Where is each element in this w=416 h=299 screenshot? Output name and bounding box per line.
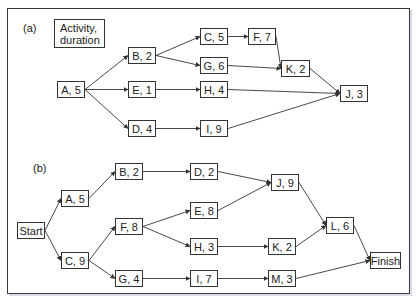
edge-f-h — [143, 227, 190, 247]
edge-k-l — [296, 226, 326, 247]
activity-node-k: K, 2 — [281, 60, 310, 77]
activity-node-d: D, 2 — [190, 163, 218, 180]
activity-node-b: B, 2 — [115, 163, 143, 180]
edge-d-j — [218, 172, 271, 183]
activity-node-j: J, 9 — [271, 174, 299, 191]
edge-g-k — [228, 66, 281, 69]
activity-node-h: H, 4 — [200, 81, 228, 98]
diagram-b-label: (b) — [33, 162, 46, 174]
activity-node-k: K, 2 — [268, 238, 296, 255]
edge-start-a — [45, 199, 61, 231]
activity-node-i: I, 9 — [200, 120, 228, 137]
activity-node-e: E, 1 — [128, 81, 156, 98]
edge-a-b — [89, 172, 115, 199]
edge-start-c — [45, 231, 61, 261]
edge-a-b — [85, 56, 128, 90]
edge-c-f — [89, 227, 115, 261]
network-diagram-figure: (a) Activity, duration (b) A, 5B, 2E, 1D… — [0, 0, 416, 299]
edge-e-j — [218, 183, 271, 211]
edge-b-c — [156, 37, 200, 56]
edge-j-l — [299, 183, 326, 226]
activity-node-l: L, 6 — [326, 217, 354, 234]
edge-i-j — [228, 94, 340, 129]
activity-node-c: C, 5 — [200, 28, 228, 45]
edge-f-e — [143, 211, 190, 227]
activity-node-a: A, 5 — [61, 190, 89, 207]
activity-node-f: F, 7 — [248, 28, 276, 45]
activity-node-a: A, 5 — [57, 81, 85, 98]
edge-a-d — [85, 90, 128, 129]
activity-node-j: J, 3 — [340, 85, 368, 102]
edge-k-j — [310, 69, 340, 94]
activity-node-g: G, 6 — [200, 57, 228, 74]
activity-node-g: G, 4 — [115, 270, 143, 287]
activity-node-start: Start — [17, 222, 45, 239]
activity-node-e: E, 8 — [190, 202, 218, 219]
activity-node-finish: Finish — [370, 252, 401, 269]
edge-l-finish — [354, 226, 370, 261]
activity-node-i: I, 7 — [190, 270, 218, 287]
activity-node-h: H, 3 — [190, 238, 218, 255]
activity-node-b: B, 2 — [128, 47, 156, 64]
activity-node-d: D, 4 — [128, 120, 156, 137]
edge-c-g — [89, 261, 115, 279]
activity-node-f: F, 8 — [115, 218, 143, 235]
activity-node-c: C, 9 — [61, 252, 89, 269]
edge-m-finish — [296, 261, 370, 279]
activity-node-m: M, 3 — [268, 270, 296, 287]
legend-box: Activity, duration — [54, 19, 105, 48]
edge-h-j — [228, 90, 340, 94]
diagram-a-label: (a) — [23, 22, 36, 34]
edge-b-g — [156, 56, 200, 66]
